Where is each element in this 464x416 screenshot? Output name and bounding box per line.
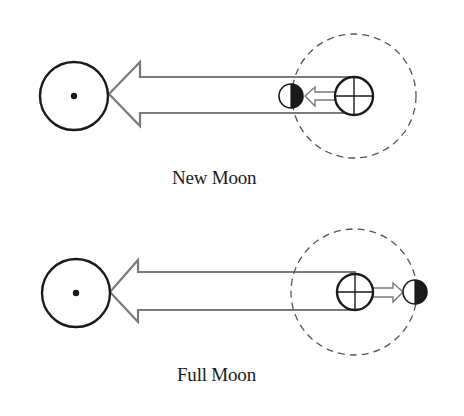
caption-full-moon: Full Moon [177,364,256,386]
moon-icon [403,280,427,304]
sun-icon [42,259,110,327]
earth-icon [337,274,373,310]
sunlight-arrow [110,260,355,322]
sun-icon [40,62,108,130]
panel-new-moon [40,34,416,158]
moon-phase-diagram [0,0,464,416]
panel-full-moon [42,229,427,355]
gravity-arrow-right [373,283,403,302]
earth-icon [335,77,373,115]
caption-new-moon: New Moon [172,167,256,189]
